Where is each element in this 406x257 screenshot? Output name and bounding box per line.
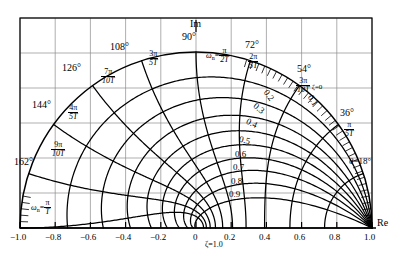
x-tick-0: 0 bbox=[193, 233, 198, 242]
x-tick-minus-1.0: −1.0 bbox=[10, 233, 26, 242]
zeta-label-0.8: 0.8 bbox=[231, 177, 242, 186]
x-tick-minus-0.8: −0.8 bbox=[45, 233, 61, 242]
omega-n-36-fraction: π5T bbox=[344, 121, 354, 138]
axis-label-re: Re bbox=[377, 218, 388, 228]
angle-label-108: 108° bbox=[110, 42, 129, 52]
omega-n-180-label: ωn=πT bbox=[31, 199, 51, 216]
angle-label-36: 36° bbox=[340, 108, 354, 118]
x-tick-0.4: 0.4 bbox=[259, 233, 270, 242]
omega-n-144-fraction: 4π5T bbox=[68, 104, 78, 121]
omega-n-54-fraction: 3π10T bbox=[296, 77, 310, 94]
angle-label-54: 54° bbox=[297, 64, 311, 74]
grid-layer bbox=[20, 18, 372, 228]
angle-label-90: 90° bbox=[182, 32, 196, 42]
omega-n-90-label: ωn=π2T bbox=[206, 47, 230, 64]
fraction-pi-2T: π2T bbox=[219, 47, 229, 64]
x-tick-minus-0.2: −0.2 bbox=[150, 233, 166, 242]
omega-n-162-fraction: 9π10T bbox=[51, 141, 65, 158]
theta-18-label: θθ=18°=18° bbox=[349, 157, 371, 166]
axis-label-im: Im bbox=[190, 19, 201, 29]
angle-label-126: 126° bbox=[62, 63, 81, 73]
zeta-label-0.7: 0.7 bbox=[233, 163, 244, 172]
x-tick-minus-0.4: −0.4 bbox=[115, 233, 131, 242]
constant-damping-curves bbox=[67, 77, 372, 228]
zeta-label-0.9: 0.9 bbox=[229, 190, 240, 199]
zeta-label-0: ζ=0 bbox=[312, 84, 322, 91]
omega-n-126-fraction: 7π10T bbox=[101, 68, 115, 85]
x-tick-1.0: 1.0 bbox=[364, 233, 375, 242]
x-tick-0.6: 0.6 bbox=[294, 233, 305, 242]
omega-n-108-fraction: 3π5T bbox=[148, 50, 158, 67]
zeta-label-0.6: 0.6 bbox=[235, 150, 246, 159]
x-tick-0.2: 0.2 bbox=[224, 233, 235, 242]
angle-label-162: 162° bbox=[14, 157, 33, 167]
omega-n-72-fraction: 2π5T bbox=[248, 53, 258, 70]
x-tick-0.8: 0.8 bbox=[329, 233, 340, 242]
x-tick-minus-0.6: −0.6 bbox=[80, 233, 96, 242]
angle-label-144: 144° bbox=[32, 100, 51, 110]
fraction-pi-T: πT bbox=[44, 199, 50, 216]
zeta-label-1.0: ζ=1.0 bbox=[205, 241, 223, 249]
root-locus-chart: Im Re 90° ωn=π2T 72° 2π5T 54° 3π10T 36° … bbox=[0, 0, 406, 257]
angle-label-72: 72° bbox=[245, 40, 259, 50]
